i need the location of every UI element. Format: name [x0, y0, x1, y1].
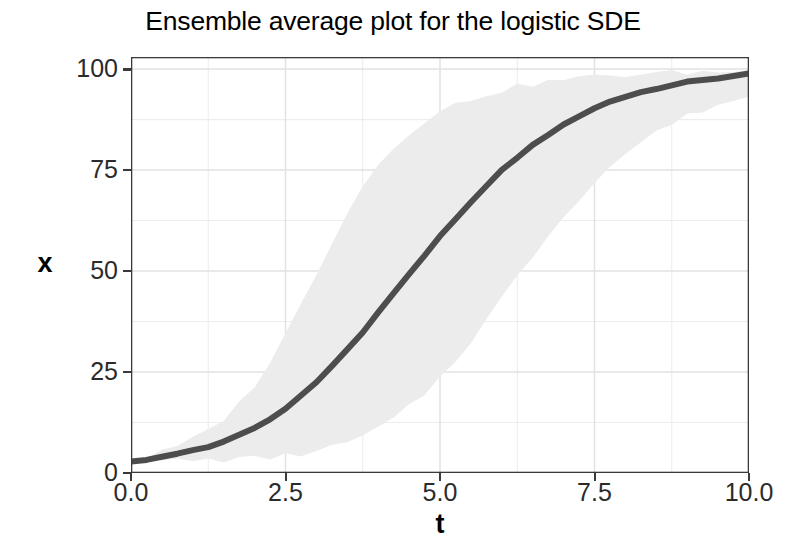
x-tick-label: 0.0 [71, 480, 191, 505]
chart-figure: Ensemble average plot for the logistic S… [0, 0, 786, 547]
y-tick-mark [123, 68, 131, 70]
x-tick-mark [594, 473, 596, 481]
x-tick-label: 10.0 [689, 480, 786, 505]
x-tick-label: 2.5 [226, 480, 346, 505]
x-axis-title: t [131, 509, 749, 539]
y-tick-mark [123, 270, 131, 272]
y-tick-label: 50 [90, 258, 118, 283]
x-tick-mark [439, 473, 441, 481]
x-tick-mark [130, 473, 132, 481]
y-tick-mark [123, 371, 131, 373]
plot-panel [131, 57, 749, 473]
x-tick-mark [285, 473, 287, 481]
y-tick-label: 100 [76, 56, 118, 81]
plot-canvas [131, 57, 749, 473]
x-tick-mark [748, 473, 750, 481]
y-tick-mark [123, 169, 131, 171]
x-tick-label: 7.5 [535, 480, 655, 505]
x-tick-label: 5.0 [380, 480, 500, 505]
y-tick-label: 75 [90, 157, 118, 182]
y-tick-label: 25 [90, 359, 118, 384]
y-axis-title: x [22, 248, 68, 278]
